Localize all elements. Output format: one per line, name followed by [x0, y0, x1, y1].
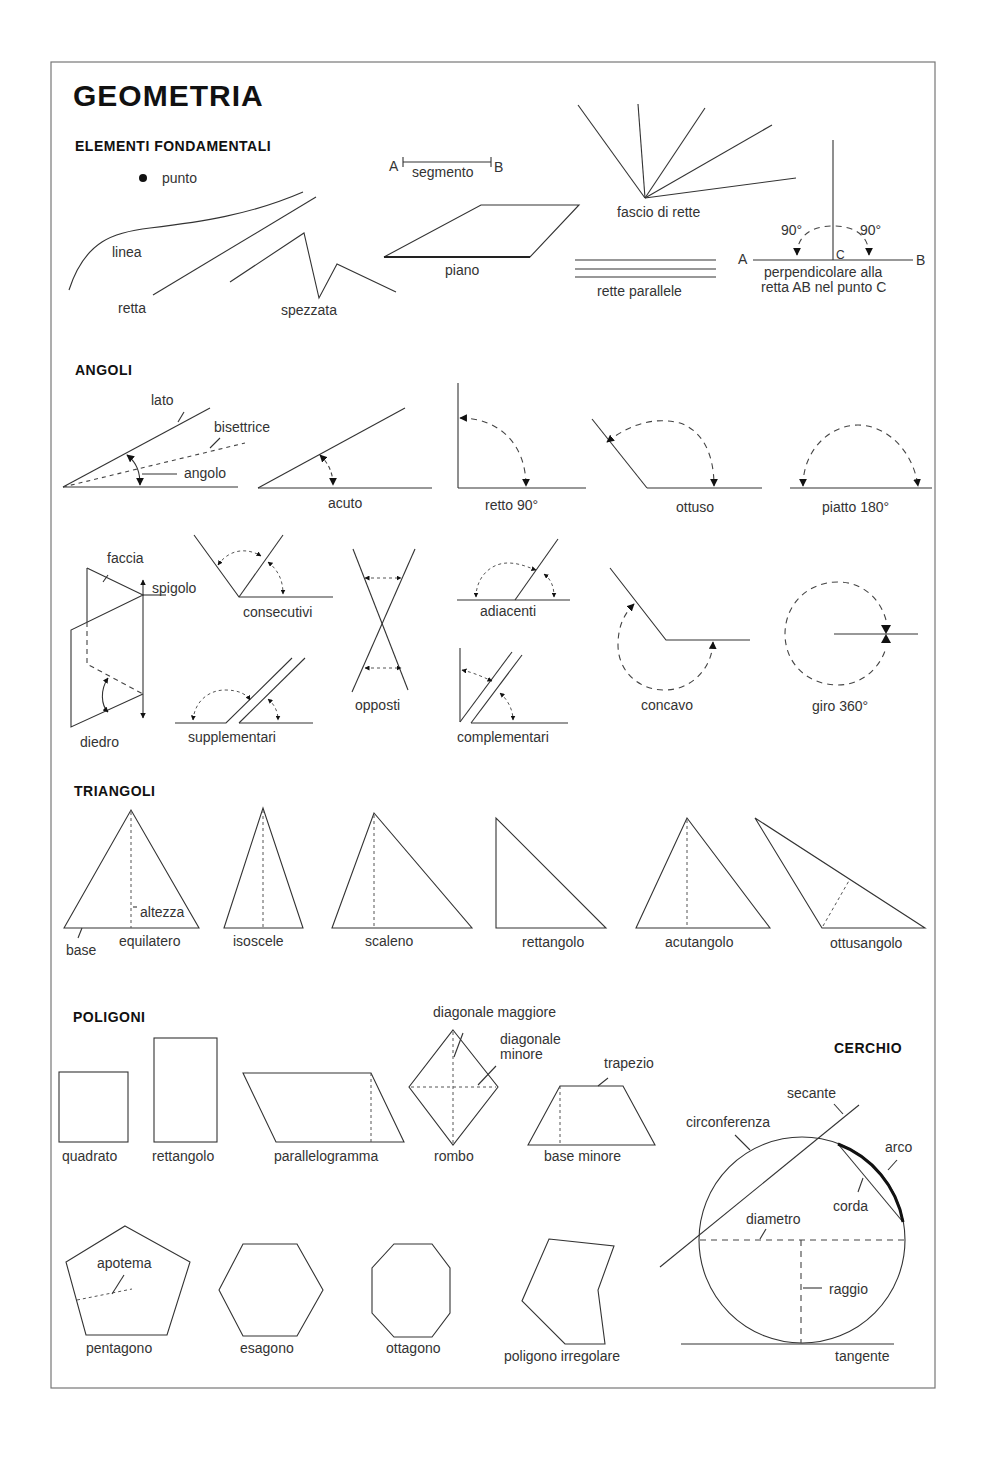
- label-faccia: faccia: [107, 550, 144, 566]
- label-segmento: segmento: [412, 164, 474, 180]
- corda-leader: [858, 1178, 863, 1192]
- bisettrice-leader: [210, 438, 220, 448]
- label-perp-line2: retta AB nel punto C: [761, 279, 886, 295]
- piatto-arc: [803, 425, 918, 486]
- label-diedro: diedro: [80, 734, 119, 750]
- giro-arrow-bottom: [881, 634, 891, 643]
- giro-arrow-top: [881, 625, 891, 634]
- section-heading: ELEMENTI FONDAMENTALI: [75, 138, 271, 154]
- label-linea: linea: [112, 244, 142, 260]
- label-base: base: [66, 942, 97, 958]
- complementari-middle1: [460, 652, 512, 722]
- section-heading: POLIGONI: [73, 1009, 145, 1025]
- label-retto: retto 90°: [485, 497, 538, 513]
- label-irregolare: poligono irregolare: [504, 1348, 620, 1364]
- label-altezza: altezza: [140, 904, 185, 920]
- secante-leader: [834, 1104, 843, 1114]
- adiacenti-arc1: [476, 563, 536, 597]
- supplementari-right-side: [239, 658, 305, 723]
- label-diag-min1: diagonale: [500, 1031, 561, 1047]
- diag-min-leader: [478, 1066, 496, 1085]
- circonferenza-leader: [735, 1135, 750, 1150]
- label-pentagono: pentagono: [86, 1340, 152, 1356]
- lato-leader: [178, 412, 184, 422]
- label-supplementari: supplementari: [188, 729, 276, 745]
- section-elementi: ELEMENTI FONDAMENTALI punto linea retta …: [69, 104, 925, 318]
- supplementari-arc1: [193, 690, 250, 720]
- ottusangolo-altezza: [823, 879, 850, 926]
- label-lato: lato: [151, 392, 174, 408]
- label-corda: corda: [833, 1198, 868, 1214]
- label-perp-c: C: [836, 248, 845, 262]
- label-spigolo: spigolo: [152, 580, 197, 596]
- label-scaleno: scaleno: [365, 933, 413, 949]
- section-heading: CERCHIO: [834, 1040, 902, 1056]
- triangle-isoscele: [224, 808, 303, 928]
- triangle-ottusangolo: [755, 818, 925, 928]
- label-parallelogramma: parallelogramma: [274, 1148, 378, 1164]
- diedro-hidden-edge: [87, 622, 143, 694]
- label-rombo: rombo: [434, 1148, 474, 1164]
- label-consecutivi: consecutivi: [243, 604, 312, 620]
- point-dot: [139, 174, 147, 182]
- shape-pentagono: [66, 1226, 190, 1335]
- label-piatto: piatto 180°: [822, 499, 889, 515]
- label-diag-magg: diagonale maggiore: [433, 1004, 556, 1020]
- label-perp-a: A: [738, 251, 748, 267]
- complementari-middle2: [471, 655, 522, 723]
- label-seg-a: A: [389, 158, 399, 174]
- apotema-leader: [112, 1275, 124, 1294]
- shape-parallelogramma: [243, 1073, 404, 1142]
- label-piano: piano: [445, 262, 479, 278]
- concavo-lines: [610, 568, 750, 640]
- consecutivi-arc2: [268, 562, 283, 594]
- label-diametro: diametro: [746, 1211, 801, 1227]
- label-circonferenza: circonferenza: [686, 1114, 770, 1130]
- label-trapezio: trapezio: [604, 1055, 654, 1071]
- label-angolo: angolo: [184, 465, 226, 481]
- label-adiacenti: adiacenti: [480, 603, 536, 619]
- trapezio-leader: [598, 1078, 608, 1086]
- fascio-lines: [578, 104, 796, 198]
- label-acuto: acuto: [328, 495, 362, 511]
- polyline-spezzata: [230, 233, 396, 298]
- complementari-arc1: [462, 670, 492, 681]
- section-cerchio: CERCHIO secante circonferenza arco corda…: [660, 1040, 912, 1364]
- retto-arc: [460, 418, 526, 486]
- label-perp-90-left: 90°: [781, 222, 802, 238]
- acuto-side: [258, 408, 405, 488]
- label-ottusangolo: ottusangolo: [830, 935, 903, 951]
- label-rettangolo-pol: rettangolo: [152, 1148, 214, 1164]
- section-heading: TRIANGOLI: [74, 783, 156, 799]
- label-fascio: fascio di rette: [617, 204, 700, 220]
- label-isoscele: isoscele: [233, 933, 284, 949]
- label-ottuso: ottuso: [676, 499, 714, 515]
- label-bisettrice: bisettrice: [214, 419, 270, 435]
- section-triangoli: TRIANGOLI altezza base equilatero isosce…: [64, 783, 925, 958]
- supplementari-arc2: [268, 699, 278, 720]
- label-diag-min2: minore: [500, 1046, 543, 1062]
- parallel-lines: [575, 260, 716, 277]
- label-retta: retta: [118, 300, 146, 316]
- label-parallele: rette parallele: [597, 283, 682, 299]
- ottuso-side: [592, 419, 647, 488]
- label-ottagono: ottagono: [386, 1340, 441, 1356]
- diametro-leader: [760, 1229, 766, 1239]
- section-heading: ANGOLI: [75, 362, 132, 378]
- label-quadrato: quadrato: [62, 1148, 117, 1164]
- triangle-rettangolo: [496, 818, 606, 928]
- label-perp-line1: perpendicolare alla: [764, 264, 883, 280]
- base-leader: [78, 928, 82, 938]
- triangle-acutangolo: [636, 818, 770, 928]
- triangle-scaleno: [332, 813, 472, 928]
- label-punto: punto: [162, 170, 197, 186]
- shape-ottagono: [372, 1244, 450, 1337]
- ottuso-arc: [607, 421, 714, 486]
- shape-trapezio: [528, 1086, 655, 1145]
- label-secante: secante: [787, 1085, 836, 1101]
- shape-poligono-irregolare: [522, 1239, 614, 1344]
- label-perp-b: B: [916, 252, 925, 268]
- shape-quadrato: [59, 1072, 128, 1142]
- label-base-minore: base minore: [544, 1148, 621, 1164]
- label-opposti: opposti: [355, 697, 400, 713]
